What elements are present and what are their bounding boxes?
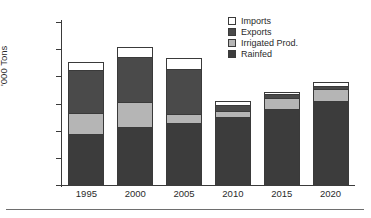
bar-segment-imports[interactable] [167,59,201,69]
legend-item[interactable]: Rainfed [228,49,298,60]
bar-segment-irrigated-prod[interactable] [314,90,348,102]
bar-segment-rainfed[interactable] [216,118,250,186]
footer-rule [6,209,364,210]
bar-segment-exports[interactable] [167,70,201,116]
bar-stack[interactable] [68,62,104,185]
chart-legend: ImportsExportsIrrigated Prod.Rainfed [228,15,298,60]
legend-item[interactable]: Imports [228,15,298,26]
legend-swatch-icon [228,50,236,58]
bar-segment-imports[interactable] [118,48,152,58]
bar-segment-irrigated-prod[interactable] [69,114,103,135]
x-tick-label: 1995 [60,188,112,199]
y-tick-mark [56,158,61,159]
bar-segment-rainfed[interactable] [118,128,152,186]
bar-segment-exports[interactable] [69,71,103,114]
bar-stack[interactable] [264,92,300,185]
y-tick-mark [56,104,61,105]
x-tick-label: 2020 [305,188,357,199]
bar-segment-exports[interactable] [118,58,152,104]
legend-swatch-icon [228,28,236,36]
bar-segment-rainfed[interactable] [167,124,201,186]
chart-figure: '000 Tons 30,00025,00020,00015,00010,000… [0,0,371,218]
bar-segment-rainfed[interactable] [314,102,348,186]
y-tick-mark [56,76,61,77]
bar-segment-rainfed[interactable] [69,135,103,186]
plot-area [62,22,355,185]
y-tick-mark [56,185,61,186]
x-axis-line [61,185,355,186]
y-axis-title: '000 Tons [0,46,9,86]
x-tick-label: 2000 [109,188,161,199]
legend-swatch-icon [228,17,236,25]
bar-segment-rainfed[interactable] [265,110,299,186]
x-tick-label: 2015 [256,188,308,199]
bar-segment-imports[interactable] [69,63,103,71]
legend-item[interactable]: Irrigated Prod. [228,37,298,48]
bar-segment-irrigated-prod[interactable] [118,103,152,127]
bar-segment-irrigated-prod[interactable] [265,99,299,111]
bar-segment-irrigated-prod[interactable] [167,115,201,124]
legend-item[interactable]: Exports [228,26,298,37]
bar-stack[interactable] [215,101,251,185]
bar-stack[interactable] [313,82,349,185]
legend-label: Imports [241,16,271,26]
y-tick-mark [56,22,61,23]
legend-label: Irrigated Prod. [241,38,298,48]
legend-label: Rainfed [241,49,272,59]
bar-stack[interactable] [166,58,202,185]
x-tick-label: 2010 [207,188,259,199]
legend-swatch-icon [228,39,236,47]
x-tick-label: 2005 [158,188,210,199]
legend-label: Exports [241,27,272,37]
y-tick-mark [56,131,61,132]
y-tick-mark [56,49,61,50]
bar-stack[interactable] [117,47,153,185]
